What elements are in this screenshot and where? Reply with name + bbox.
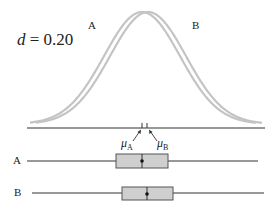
mean-label-b: μB: [157, 136, 168, 152]
mean-dot-b: [145, 192, 149, 196]
curve-label-b: B: [192, 19, 199, 31]
mean-dot-a: [140, 159, 144, 163]
boxplot-label-a: A: [13, 154, 21, 166]
curve-label-a: A: [88, 19, 96, 31]
effect-size-label: d = 0.20: [17, 30, 73, 50]
boxplot-a: [27, 154, 258, 168]
mean-label-a: μA: [121, 136, 133, 152]
boxplot-b: [32, 187, 264, 200]
boxplot-label-b: B: [14, 186, 21, 198]
